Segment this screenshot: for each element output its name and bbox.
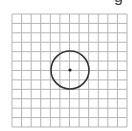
grid-diagram (0, 0, 132, 131)
center-point (68, 68, 71, 71)
